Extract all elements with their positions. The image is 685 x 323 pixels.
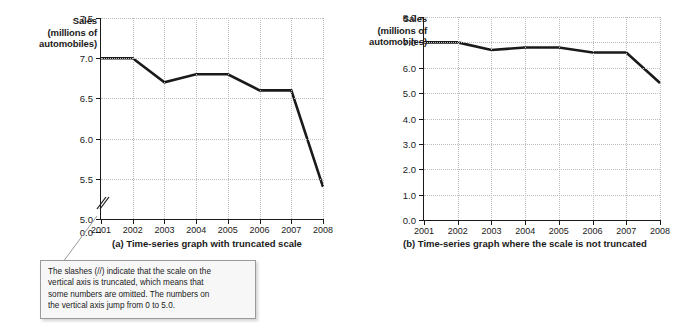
x-axis-tick-label: 2004 <box>515 226 535 236</box>
y-axis-tick <box>419 169 424 170</box>
figure-two-time-series-graphs: Sales (millions of automobiles) 0.05.05.… <box>0 0 685 323</box>
y-axis-title-b-line2: (millions of <box>369 25 427 37</box>
gridline-vertical <box>323 18 324 219</box>
x-axis-tick-label: 2002 <box>448 226 468 236</box>
x-axis-tick <box>164 219 165 224</box>
x-axis-tick-label: 2003 <box>481 226 501 236</box>
data-line-a <box>101 18 323 219</box>
x-axis-tick-label: 2006 <box>583 226 603 236</box>
x-axis-tick <box>491 220 492 225</box>
y-axis-tick <box>419 119 424 120</box>
y-axis-title-a-line3: automobiles) <box>39 38 97 50</box>
x-axis-tick-label: 2007 <box>616 226 636 236</box>
y-axis-tick <box>96 18 101 19</box>
callout-line-2: vertical axis is truncated, which means … <box>48 277 248 288</box>
y-axis-tick <box>96 139 101 140</box>
x-axis-tick <box>133 219 134 224</box>
y-axis-tick-label: 8.0 <box>403 12 416 23</box>
x-axis-tick <box>101 219 102 224</box>
y-axis-tick-label: 5.0 <box>80 214 93 225</box>
x-axis-tick-label: 2004 <box>186 225 206 235</box>
y-axis-tick-label: 6.5 <box>80 93 93 104</box>
x-axis-tick <box>424 220 425 225</box>
callout-truncated-scale-note: The slashes (//) indicate that the scale… <box>40 260 256 319</box>
y-axis-title-a-line2: (millions of <box>39 27 97 39</box>
plot-area-a: 0.05.05.56.06.57.07.52001200220032004200… <box>100 18 323 220</box>
y-axis-tick <box>419 68 424 69</box>
x-axis-tick-label: 2001 <box>91 225 111 235</box>
x-axis-tick <box>593 220 594 225</box>
y-axis-tick-label: 0.0 <box>403 215 416 226</box>
x-axis-tick <box>458 220 459 225</box>
x-axis-tick <box>228 219 229 224</box>
y-axis-tick-label: 3.0 <box>403 138 416 149</box>
axis-break-slashes-a <box>95 194 109 212</box>
x-axis-tick-label: 2005 <box>549 226 569 236</box>
x-axis-tick-label: 2003 <box>154 225 174 235</box>
y-axis-tick <box>419 93 424 94</box>
x-axis-tick <box>196 219 197 224</box>
y-axis-tick-label: 2.0 <box>403 164 416 175</box>
y-axis-tick-label: 7.0 <box>80 53 93 64</box>
x-axis-tick-label: 2005 <box>218 225 238 235</box>
x-axis-tick <box>291 219 292 224</box>
y-axis-tick <box>419 42 424 43</box>
y-axis-tick <box>419 17 424 18</box>
y-axis-tick <box>419 195 424 196</box>
y-axis-tick-label: 7.0 <box>403 37 416 48</box>
y-axis-tick-label: 6.0 <box>403 62 416 73</box>
y-axis-tick <box>96 179 101 180</box>
x-axis-tick-label: 2001 <box>414 226 434 236</box>
x-axis-tick <box>525 220 526 225</box>
caption-b: (b) Time-series graph where the scale is… <box>403 238 648 250</box>
y-axis-tick-label: 5.0 <box>403 88 416 99</box>
x-axis-tick-label: 2007 <box>281 225 301 235</box>
y-axis-tick-label: 5.5 <box>80 173 93 184</box>
x-axis-tick-label: 2006 <box>250 225 270 235</box>
y-axis-tick-label: 6.0 <box>80 133 93 144</box>
x-axis-tick <box>559 220 560 225</box>
callout-line-4: the vertical axis jump from 0 to 5.0. <box>48 300 248 311</box>
y-axis-tick <box>96 58 101 59</box>
callout-line-3: some numbers are omitted. The numbers on <box>48 289 248 300</box>
x-axis-tick-label: 2002 <box>123 225 143 235</box>
y-axis-tick-label: 7.5 <box>80 13 93 24</box>
panel-a-truncated-scale: Sales (millions of automobiles) 0.05.05.… <box>0 0 350 260</box>
y-axis-tick-label: 4.0 <box>403 113 416 124</box>
x-axis-tick <box>660 220 661 225</box>
y-axis-tick <box>419 144 424 145</box>
y-axis-tick <box>96 98 101 99</box>
data-line-b <box>424 17 660 220</box>
gridline-vertical <box>660 17 661 220</box>
y-axis-title-b-line1: Sales <box>369 13 427 25</box>
x-axis-tick-label: 2008 <box>313 225 333 235</box>
callout-line-1: The slashes (//) indicate that the scale… <box>48 266 248 277</box>
x-axis-tick-label: 2008 <box>650 226 670 236</box>
plot-area-b: 0.01.02.03.04.05.06.07.08.02001200220032… <box>423 17 660 221</box>
caption-a: (a) Time-series graph with truncated sca… <box>112 238 347 250</box>
x-axis-tick <box>260 219 261 224</box>
panel-b-full-scale: Sales (millions of automobiles) 0.01.02.… <box>355 0 685 280</box>
x-axis-tick <box>626 220 627 225</box>
y-axis-tick-label: 1.0 <box>403 189 416 200</box>
x-axis-tick <box>323 219 324 224</box>
